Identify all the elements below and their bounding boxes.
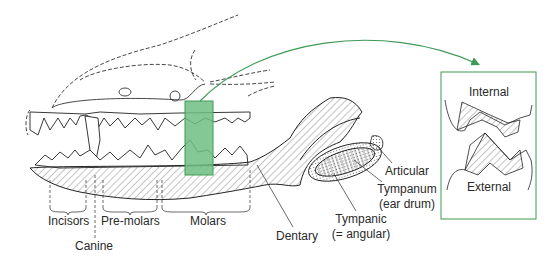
- annotation-lines: [0, 0, 550, 259]
